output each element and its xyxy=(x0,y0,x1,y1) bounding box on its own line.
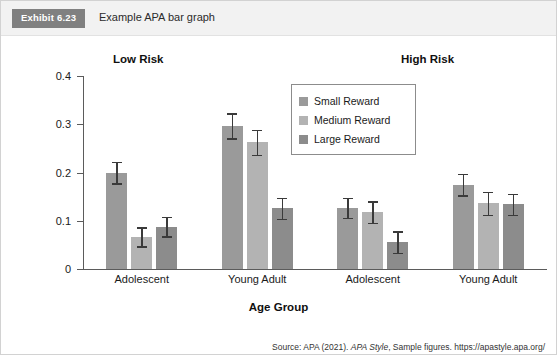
error-bar-cap xyxy=(162,236,172,238)
panel-title-high-risk: High Risk xyxy=(401,53,454,65)
x-axis-line xyxy=(83,269,547,270)
source-note: Source: APA (2021). APA Style, Sample fi… xyxy=(215,341,545,355)
error-bar xyxy=(282,198,284,219)
bar xyxy=(247,142,268,269)
error-bar xyxy=(116,162,118,183)
x-axis-group-label: Young Adult xyxy=(228,273,286,285)
error-bar-cap xyxy=(343,218,353,220)
error-bar xyxy=(372,201,374,222)
legend-swatch-medium-reward xyxy=(299,116,308,125)
error-bar xyxy=(166,217,168,236)
error-bar-cap xyxy=(112,183,122,185)
y-tick-mark xyxy=(77,173,83,174)
error-bar-cap xyxy=(483,192,493,194)
panel-title-low-risk: Low Risk xyxy=(113,53,163,65)
x-axis-label: Age Group xyxy=(1,301,556,313)
error-bar-cap xyxy=(368,223,378,225)
error-bar-cap xyxy=(393,253,403,255)
bar-chart: Low Risk High Risk 00.10.20.30.4 Framing… xyxy=(1,35,556,354)
y-tick-label: 0.3 xyxy=(11,118,71,130)
y-tick-label: 0.1 xyxy=(11,215,71,227)
exhibit-figure: Exhibit 6.23 Example APA bar graph Low R… xyxy=(0,0,557,355)
error-bar xyxy=(257,130,259,155)
error-bar-cap xyxy=(252,130,262,132)
exhibit-header: Exhibit 6.23 Example APA bar graph xyxy=(1,1,557,36)
x-axis-group-label: Adolescent xyxy=(115,273,169,285)
x-axis-group-label: Young Adult xyxy=(459,273,517,285)
error-bar-cap xyxy=(343,198,353,200)
error-bar-cap xyxy=(483,215,493,217)
bar xyxy=(453,185,474,269)
error-bar-cap xyxy=(227,138,237,140)
error-bar xyxy=(232,113,234,138)
error-bar-cap xyxy=(162,217,172,219)
exhibit-number-badge: Exhibit 6.23 xyxy=(12,9,85,28)
y-tick-label: 0 xyxy=(11,263,71,275)
legend-item-small-reward: Small Reward xyxy=(299,95,407,107)
y-tick-mark xyxy=(77,269,83,270)
error-bar-cap xyxy=(112,162,122,164)
error-bar xyxy=(513,194,515,215)
error-bar-cap xyxy=(227,113,237,115)
legend-label-large-reward: Large Reward xyxy=(314,133,380,145)
error-bar-cap xyxy=(252,155,262,157)
error-bar-cap xyxy=(508,215,518,217)
error-bar-cap xyxy=(277,198,287,200)
legend-swatch-small-reward xyxy=(299,97,308,106)
legend-item-large-reward: Large Reward xyxy=(299,133,407,145)
error-bar-cap xyxy=(277,219,287,221)
legend-label-small-reward: Small Reward xyxy=(314,95,379,107)
bar xyxy=(222,126,243,269)
y-tick-mark xyxy=(77,76,83,77)
x-axis-group-label: Adolescent xyxy=(346,273,400,285)
error-bar-cap xyxy=(368,201,378,203)
error-bar-cap xyxy=(393,231,403,233)
error-bar xyxy=(488,192,490,215)
error-bar xyxy=(463,174,465,195)
legend-swatch-large-reward xyxy=(299,135,308,144)
bar xyxy=(106,173,127,270)
y-tick-mark xyxy=(77,124,83,125)
legend-label-medium-reward: Medium Reward xyxy=(314,114,390,126)
error-bar xyxy=(141,227,143,246)
error-bar-cap xyxy=(508,194,518,196)
error-bar-cap xyxy=(137,246,147,248)
chart-legend: Small Reward Medium Reward Large Reward xyxy=(291,84,416,155)
error-bar-cap xyxy=(137,227,147,229)
y-tick-label: 0.4 xyxy=(11,70,71,82)
error-bar-cap xyxy=(458,174,468,176)
error-bar xyxy=(397,231,399,252)
y-tick-label: 0.2 xyxy=(11,167,71,179)
error-bar xyxy=(347,198,349,218)
legend-item-medium-reward: Medium Reward xyxy=(299,114,407,126)
y-tick-mark xyxy=(77,221,83,222)
exhibit-caption: Example APA bar graph xyxy=(99,11,215,23)
error-bar-cap xyxy=(458,195,468,197)
